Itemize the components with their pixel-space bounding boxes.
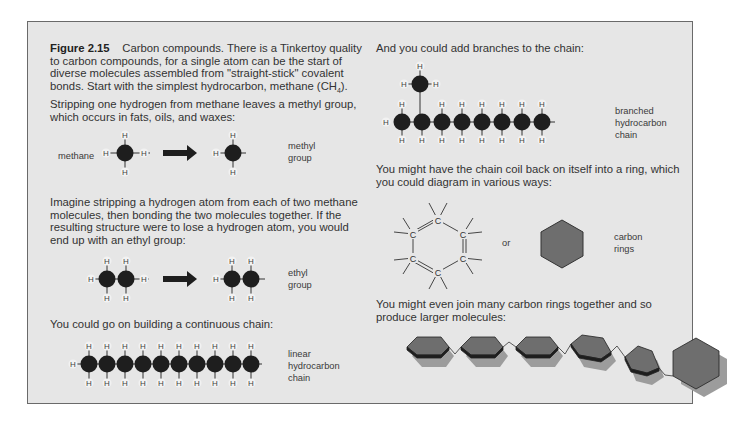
svg-text:C: C bbox=[460, 254, 467, 264]
ethyl-molecule: H H H H H bbox=[210, 255, 280, 305]
svg-text:H: H bbox=[539, 136, 545, 145]
branched-hydrocarbon-chain: HHHH HHHHHHH HHHHHHHH bbox=[390, 60, 560, 145]
svg-text:H: H bbox=[212, 379, 218, 388]
svg-text:H: H bbox=[88, 275, 94, 284]
ring-description: You might have the chain coil back on it… bbox=[376, 163, 680, 188]
svg-text:C: C bbox=[435, 268, 442, 278]
svg-text:H: H bbox=[519, 100, 525, 109]
svg-text:C: C bbox=[460, 230, 467, 240]
linear-chain-label: linear hydrocarbon chain bbox=[288, 348, 340, 384]
svg-text:H: H bbox=[399, 100, 405, 109]
methyl-group-label: methyl group bbox=[288, 140, 315, 164]
svg-text:H: H bbox=[104, 257, 110, 266]
svg-text:H: H bbox=[141, 275, 147, 284]
svg-text:H: H bbox=[499, 100, 505, 109]
branched-chain-label: branched hydrocarbon chain bbox=[615, 105, 667, 141]
methyl-molecule: H H H bbox=[208, 128, 258, 178]
svg-text:H: H bbox=[122, 168, 128, 177]
svg-text:H: H bbox=[248, 379, 254, 388]
svg-text:H: H bbox=[383, 118, 389, 127]
svg-text:H: H bbox=[248, 257, 254, 266]
ethyl-description: Imagine stripping a hydrogen atom from e… bbox=[50, 196, 370, 247]
svg-text:H: H bbox=[229, 257, 235, 266]
linear-hydrocarbon-chain: H HHHHHHHHHH HHHHHHHHHH bbox=[65, 340, 265, 390]
svg-text:H: H bbox=[439, 136, 445, 145]
svg-text:H: H bbox=[213, 149, 219, 158]
svg-text:H: H bbox=[104, 294, 110, 303]
svg-text:H: H bbox=[230, 342, 236, 351]
svg-text:H: H bbox=[122, 131, 128, 140]
svg-text:H: H bbox=[519, 136, 525, 145]
svg-text:H: H bbox=[104, 342, 110, 351]
svg-text:H: H bbox=[401, 80, 407, 89]
methane-molecule: H H H H bbox=[98, 128, 158, 178]
carbon-rings-label: carbon rings bbox=[614, 231, 642, 255]
joined-carbon-rings bbox=[395, 330, 739, 438]
svg-text:H: H bbox=[248, 342, 254, 351]
svg-text:H: H bbox=[539, 100, 545, 109]
chain-description: You could go on building a continuous ch… bbox=[50, 318, 273, 331]
ethane-molecule: H H H H H H bbox=[85, 255, 155, 305]
svg-text:H: H bbox=[123, 257, 129, 266]
svg-text:H: H bbox=[230, 379, 236, 388]
figure-number: Figure 2.15 bbox=[50, 42, 110, 54]
svg-text:H: H bbox=[459, 136, 465, 145]
arrow-icon bbox=[163, 145, 203, 161]
svg-text:H: H bbox=[229, 294, 235, 303]
svg-text:H: H bbox=[176, 379, 182, 388]
svg-text:H: H bbox=[194, 342, 200, 351]
svg-text:H: H bbox=[194, 379, 200, 388]
svg-text:H: H bbox=[103, 149, 109, 158]
branch-description: And you could add branches to the chain: bbox=[376, 42, 584, 55]
ethyl-group-label: ethyl group bbox=[288, 267, 312, 291]
svg-text:H: H bbox=[213, 275, 219, 284]
svg-text:H: H bbox=[419, 136, 425, 145]
svg-text:H: H bbox=[86, 379, 92, 388]
svg-text:H: H bbox=[499, 136, 505, 145]
svg-text:H: H bbox=[230, 131, 236, 140]
svg-text:C: C bbox=[410, 230, 417, 240]
svg-text:H: H bbox=[123, 294, 129, 303]
svg-text:H: H bbox=[212, 342, 218, 351]
svg-text:H: H bbox=[399, 136, 405, 145]
svg-text:C: C bbox=[435, 216, 442, 226]
svg-text:H: H bbox=[248, 294, 254, 303]
svg-text:H: H bbox=[439, 100, 445, 109]
svg-text:H: H bbox=[176, 342, 182, 351]
svg-text:H: H bbox=[479, 136, 485, 145]
svg-text:H: H bbox=[86, 342, 92, 351]
svg-text:H: H bbox=[158, 379, 164, 388]
svg-text:H: H bbox=[417, 62, 423, 71]
methane-label: methane bbox=[58, 150, 94, 162]
figure-caption: Figure 2.15 Carbon compounds. There is a… bbox=[50, 42, 370, 123]
svg-text:H: H bbox=[479, 100, 485, 109]
svg-text:H: H bbox=[230, 168, 236, 177]
or-label: or bbox=[502, 237, 510, 249]
arrow-icon bbox=[163, 271, 203, 287]
svg-text:H: H bbox=[122, 379, 128, 388]
svg-text:H: H bbox=[141, 149, 147, 158]
svg-text:H: H bbox=[140, 379, 146, 388]
svg-text:H: H bbox=[140, 342, 146, 351]
svg-text:H: H bbox=[459, 100, 465, 109]
hexagon-ring-icon bbox=[537, 219, 587, 269]
svg-text:C: C bbox=[410, 254, 417, 264]
svg-text:H: H bbox=[433, 80, 439, 89]
polymer-description: You might even join many carbon rings to… bbox=[376, 298, 652, 323]
svg-text:H: H bbox=[104, 379, 110, 388]
svg-text:H: H bbox=[158, 342, 164, 351]
svg-text:H: H bbox=[122, 342, 128, 351]
svg-text:H: H bbox=[70, 360, 76, 369]
carbon-ring-structural-formula: C C C C C C bbox=[393, 200, 483, 290]
